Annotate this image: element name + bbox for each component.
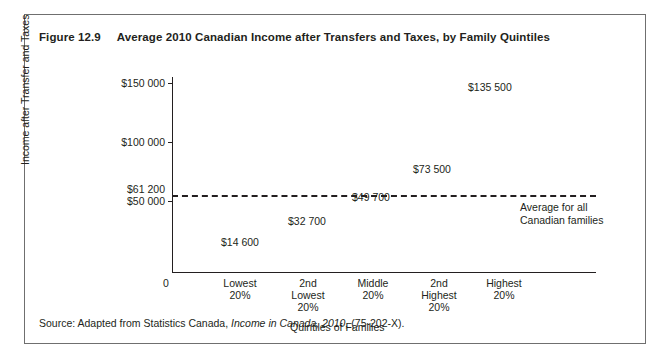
x-category-highest-line2: 20% bbox=[461, 289, 547, 301]
source-note: Source: Adapted from Statistics Canada, … bbox=[39, 317, 404, 329]
y-tick-label-100000: $100 000 bbox=[91, 136, 165, 148]
y-tick-50000 bbox=[168, 201, 173, 202]
figure-card: Figure 12.9 Average 2010 Canadian Income… bbox=[24, 14, 646, 344]
x-category-2nd-highest-line3: 20% bbox=[396, 301, 482, 313]
y-axis-title: Income after Transfer and Taxes bbox=[19, 15, 31, 165]
data-label-lowest: $14 600 bbox=[221, 236, 259, 248]
source-publication: Income in Canada, 2010, bbox=[231, 317, 348, 329]
origin-label: 0 bbox=[163, 277, 169, 289]
source-suffix: (75-202-X). bbox=[351, 317, 404, 329]
average-annotation: Average for all Canadian families bbox=[520, 201, 603, 227]
data-label-2nd-lowest: $32 700 bbox=[288, 215, 326, 227]
average-annotation-line1: Average for all bbox=[520, 201, 603, 214]
x-axis-line bbox=[172, 272, 596, 273]
y-tick-label-150000: $150 000 bbox=[91, 77, 165, 89]
y-tick-label-61200: $61 200 bbox=[91, 183, 165, 195]
chart-plot-area: $150 000 $100 000 $61 200 $50 000 Income… bbox=[25, 15, 647, 345]
x-category-2nd-lowest-line3: 20% bbox=[265, 301, 351, 313]
x-category-highest: Highest 20% bbox=[461, 277, 547, 301]
data-label-middle: $49 700 bbox=[352, 191, 390, 203]
source-prefix: Source: Adapted from Statistics Canada, bbox=[39, 317, 228, 329]
x-category-highest-line1: Highest bbox=[461, 277, 547, 289]
average-annotation-line2: Canadian families bbox=[520, 214, 603, 227]
data-label-2nd-highest: $73 500 bbox=[413, 163, 451, 175]
data-label-highest: $135 500 bbox=[468, 81, 512, 93]
y-tick-150000 bbox=[168, 83, 173, 84]
y-tick-100000 bbox=[168, 142, 173, 143]
y-tick-label-50000: $50 000 bbox=[91, 195, 165, 207]
y-axis-line bbox=[172, 77, 173, 273]
